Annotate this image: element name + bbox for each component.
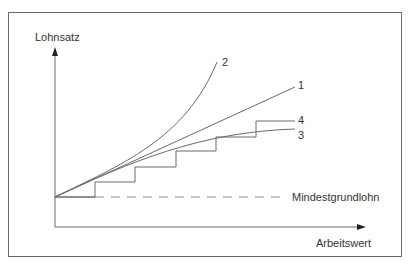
curve-2-progressive <box>55 62 217 197</box>
x-axis-label: Arbeitswert <box>316 238 371 249</box>
curve-4-label: 4 <box>298 115 304 126</box>
curve-3-degressive <box>55 129 295 197</box>
curve-3-label: 3 <box>298 130 304 141</box>
curve-2-label: 2 <box>222 57 228 68</box>
curve-1-label: 1 <box>298 80 304 91</box>
x-axis-arrow-icon <box>357 224 366 230</box>
curve-4-steps <box>55 121 295 197</box>
baseline-label: Mindestgrundlohn <box>292 192 379 203</box>
y-axis-arrow-icon <box>52 47 58 56</box>
y-axis-label: Lohnsatz <box>35 32 80 43</box>
